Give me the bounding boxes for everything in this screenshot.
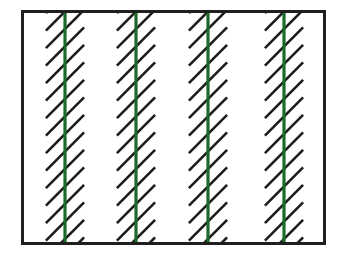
figure-root (0, 0, 343, 256)
pattern-canvas (24, 13, 323, 242)
pattern-svg (24, 13, 323, 242)
rectangular-border (21, 10, 326, 245)
